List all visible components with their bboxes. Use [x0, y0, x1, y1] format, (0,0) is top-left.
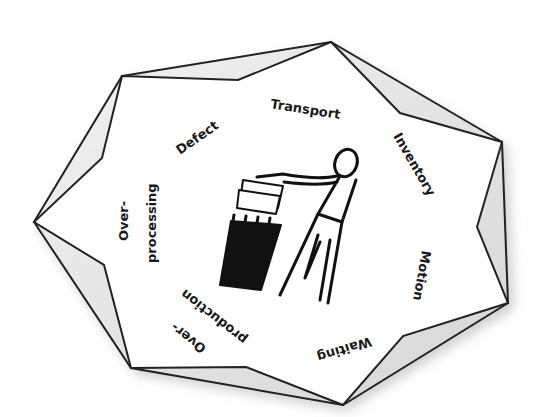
paper-icon — [237, 180, 283, 214]
label-overprocessing-line2: processing — [144, 183, 159, 263]
label-overprocessing-line1: Over- — [116, 201, 131, 241]
waste-diagram: Transport Inventory Motion Waiting Over-… — [0, 0, 543, 417]
